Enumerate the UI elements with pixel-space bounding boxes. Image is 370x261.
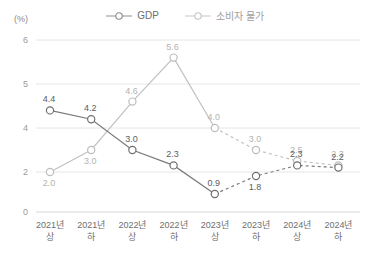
x-axis-tick-label: 2023년상 — [201, 220, 229, 242]
y-axis-tick-label: 4 — [23, 123, 28, 133]
svg-text:2023년하: 2023년하 — [242, 220, 270, 242]
data-point-label: 3.0 — [84, 156, 97, 166]
data-point-label: 3.0 — [125, 134, 138, 144]
data-point-label: 2.3 — [290, 149, 303, 159]
data-point-label: 1.8 — [249, 182, 262, 192]
data-point-label: 5.6 — [166, 42, 179, 52]
data-point-marker[interactable] — [170, 54, 177, 61]
data-point-marker[interactable] — [252, 172, 259, 179]
data-point-marker[interactable] — [88, 146, 95, 153]
x-axis-tick-label: 2024년상 — [283, 220, 311, 242]
svg-text:2023년상: 2023년상 — [201, 220, 229, 242]
y-axis-tick-label: 5 — [23, 79, 28, 89]
x-axis-tick-label: 2021년하 — [77, 220, 105, 242]
data-point-label: 4.6 — [125, 86, 138, 96]
data-point-marker[interactable] — [170, 162, 177, 169]
y-axis-tick-label: 2 — [23, 167, 28, 177]
series-line-dashed — [215, 128, 339, 165]
data-point-label: 2.2 — [331, 152, 344, 162]
svg-text:2024년하: 2024년하 — [324, 220, 352, 242]
svg-text:2021년상: 2021년상 — [36, 220, 64, 242]
series-line-solid — [50, 58, 215, 172]
data-point-label: 2.0 — [43, 178, 56, 188]
data-point-marker[interactable] — [211, 190, 218, 197]
data-point-marker[interactable] — [46, 107, 53, 114]
svg-text:2022년하: 2022년하 — [160, 220, 188, 242]
x-axis-tick-label: 2023년하 — [242, 220, 270, 242]
data-point-label: 4.2 — [84, 103, 97, 113]
data-point-label: 3.0 — [249, 134, 262, 144]
data-point-label: 4.4 — [43, 94, 56, 104]
data-point-marker[interactable] — [129, 98, 136, 105]
data-point-marker[interactable] — [211, 124, 218, 131]
svg-text:2021년하: 2021년하 — [77, 220, 105, 242]
data-point-marker[interactable] — [46, 168, 53, 175]
data-point-marker[interactable] — [129, 146, 136, 153]
y-axis-tick-label: 6 — [23, 35, 28, 45]
data-point-marker[interactable] — [252, 146, 259, 153]
data-point-label: 0.9 — [208, 178, 221, 188]
svg-text:2022년상: 2022년상 — [118, 220, 146, 242]
chart-container: (%) GDP 소비자 물가 654202021년상2021년하2022년상20… — [0, 0, 370, 261]
x-axis-tick-label: 2021년상 — [36, 220, 64, 242]
data-point-label: 2.3 — [166, 149, 179, 159]
y-axis-tick-label: 0 — [23, 207, 28, 217]
x-axis-tick-label: 2022년상 — [118, 220, 146, 242]
data-point-label: 4.0 — [208, 112, 221, 122]
x-axis-tick-label: 2024년하 — [324, 220, 352, 242]
series-line-dashed — [215, 165, 339, 194]
data-point-marker[interactable] — [335, 164, 342, 171]
x-axis-tick-label: 2022년하 — [160, 220, 188, 242]
line-chart-plot: 654202021년상2021년하2022년상2022년하2023년상2023년… — [0, 0, 370, 261]
data-point-marker[interactable] — [294, 162, 301, 169]
svg-text:2024년상: 2024년상 — [283, 220, 311, 242]
data-point-marker[interactable] — [88, 116, 95, 123]
